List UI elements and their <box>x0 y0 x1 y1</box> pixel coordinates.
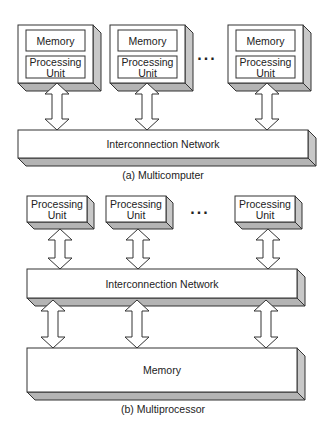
bidirectional-arrow-icon <box>125 300 149 348</box>
node-box-side <box>303 25 311 91</box>
ellipsis: ... <box>190 200 209 217</box>
processing-unit-box-bottom <box>106 222 173 229</box>
processing-unit-box-bottom <box>27 222 94 229</box>
multicomputer-diagram: MemoryProcessingUnit MemoryProcessingUni… <box>18 25 316 181</box>
bidirectional-arrow-icon <box>41 300 65 348</box>
memory-label: Memory <box>143 364 182 376</box>
bidirectional-arrow-icon <box>48 229 72 269</box>
bidirectional-arrow-icon <box>126 229 150 269</box>
processing-unit-label: Unit <box>127 209 146 221</box>
bidirectional-arrow-icon <box>255 83 279 130</box>
interconnection-network: Interconnection Network <box>18 130 316 166</box>
diagram-caption: (b) Multiprocessor <box>121 403 206 415</box>
multiprocessor-diagram: ProcessingUnit ProcessingUnit Processing… <box>27 196 305 415</box>
processing-unit-label: Unit <box>46 67 65 79</box>
processing-unit-label: Unit <box>138 67 157 79</box>
interconnection-network: Interconnection Network <box>27 269 305 306</box>
processing-unit-label: Unit <box>256 67 275 79</box>
bidirectional-arrow-icon <box>45 83 69 130</box>
computer-node: MemoryProcessingUnit <box>18 25 101 91</box>
memory-label: Memory <box>37 35 76 47</box>
processing-unit-label: Unit <box>256 209 275 221</box>
network-box-bottom <box>18 158 316 166</box>
diagram-caption: (a) Multicomputer <box>122 169 204 181</box>
multicomputer-vs-multiprocessor-diagram: MemoryProcessingUnit MemoryProcessingUni… <box>0 0 326 429</box>
node-box-side <box>185 25 193 91</box>
processing-unit-label: Unit <box>48 209 67 221</box>
processing-unit-box-bottom <box>235 222 302 229</box>
bidirectional-arrow-icon <box>254 300 278 348</box>
computer-node: MemoryProcessingUnit <box>228 25 311 91</box>
network-label: Interconnection Network <box>106 138 220 150</box>
processing-unit: ProcessingUnit <box>27 196 94 229</box>
memory-box-bottom <box>27 392 305 400</box>
processing-unit: ProcessingUnit <box>235 196 302 229</box>
bidirectional-arrow-icon <box>135 83 159 130</box>
ellipsis: ... <box>197 46 216 63</box>
network-label: Interconnection Network <box>105 278 219 290</box>
bidirectional-arrow-icon <box>256 229 280 269</box>
shared-memory: Memory <box>27 348 305 400</box>
node-box-side <box>93 25 101 91</box>
memory-label: Memory <box>129 35 168 47</box>
memory-box-side <box>297 348 305 400</box>
computer-node: MemoryProcessingUnit <box>110 25 193 91</box>
processing-unit: ProcessingUnit <box>106 196 173 229</box>
memory-label: Memory <box>247 35 286 47</box>
